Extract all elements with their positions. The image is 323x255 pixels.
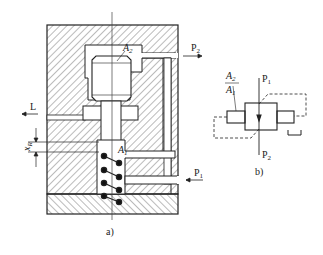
label-p1: P1 [194,167,204,180]
ratio-label: A2 A1 [225,70,239,97]
svg-text:A2: A2 [225,70,236,83]
label-p2: P2 [191,42,201,55]
label-l: L [30,101,36,112]
label-b-p2: P2 [262,149,272,162]
svg-text:A1: A1 [225,84,236,97]
caption-b: b) [255,166,263,178]
label-b-p1: P1 [262,73,272,86]
valve-diagram: A2 A1 P2 P1 L xR a) A2 A1 P1 P2 b) [0,0,323,255]
label-xr: xR [21,142,34,152]
figure: A2 A1 P2 P1 L xR a) A2 A1 P1 P2 b) [0,0,323,255]
valve-body [47,25,178,214]
caption-a: a) [106,226,114,238]
